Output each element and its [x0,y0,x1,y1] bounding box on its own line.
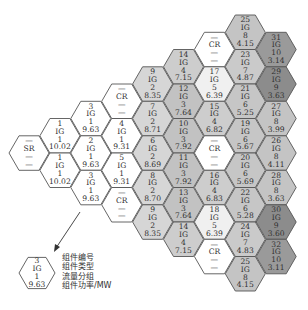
legend-hex-label: 3 IG 1 9.63 [19,257,55,289]
arrow-head-icon [54,244,60,252]
hex-line-power: 3.60 [258,230,294,238]
legend-arrow [54,212,80,252]
hex-label: 32IG103.11 [258,241,294,273]
hex-label: 29IG93.63 [258,68,294,100]
legend-label-number: 组件编号 [62,253,112,262]
hex-line-power: 3.63 [258,195,294,203]
hex-line-power: 3.11 [258,264,294,272]
legend-component-power: 9.63 [19,281,55,289]
hex-line-power: 4.11 [258,161,294,169]
legend-labels: 组件编号 组件类型 流量分组 组件功率/MW [62,253,112,291]
hex-line-power: 4.15 [227,281,263,289]
hex-line-power: 3.63 [258,92,294,100]
hex-label: 27IG83.99 [258,103,294,135]
hex-label: 28IG83.63 [258,172,294,204]
hex-label: 26IG84.11 [258,137,294,169]
hex-label: 30IG93.60 [258,206,294,238]
hex-label: 31IG103.14 [258,34,294,66]
legend-label-type: 组件类型 [62,262,112,271]
legend-label-power: 组件功率/MW [62,281,112,290]
hex-line-power: 3.99 [258,126,294,134]
hex-line-power: 3.14 [258,57,294,65]
legend-label-group: 流量分组 [62,272,112,281]
